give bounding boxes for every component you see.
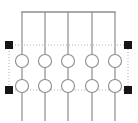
component-u2[interactable]	[39, 55, 52, 68]
component-u4[interactable]	[86, 55, 99, 68]
handle-bottom-left[interactable]	[5, 86, 13, 94]
handle-top-left[interactable]	[5, 41, 13, 49]
schematic-drawing[interactable]	[0, 0, 138, 123]
component-l3[interactable]	[62, 80, 75, 93]
component-l1[interactable]	[16, 80, 29, 93]
component-row-lower	[16, 80, 122, 93]
component-l5[interactable]	[109, 80, 122, 93]
schematic-canvas[interactable]	[0, 0, 138, 123]
component-l2[interactable]	[39, 80, 52, 93]
component-u3[interactable]	[62, 55, 75, 68]
component-row-upper	[16, 55, 122, 68]
component-u5[interactable]	[109, 55, 122, 68]
handle-bottom-right[interactable]	[124, 86, 132, 94]
component-u1[interactable]	[16, 55, 29, 68]
component-l4[interactable]	[86, 80, 99, 93]
handle-top-right[interactable]	[124, 41, 132, 49]
